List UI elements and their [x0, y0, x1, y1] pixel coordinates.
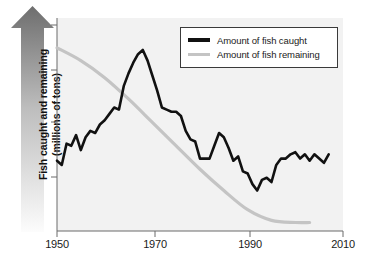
legend-label-fish-caught: Amount of fish caught	[217, 35, 307, 46]
series-line-fish-remaining	[57, 48, 310, 223]
chart-figure: Fish caught and remaining (millions of t…	[0, 0, 366, 267]
legend-item-fish-caught: Amount of fish caught	[188, 33, 330, 47]
legend-item-fish-remaining: Amount of fish remaining	[188, 47, 330, 61]
x-tick-label-1950: 1950	[45, 238, 69, 250]
x-axis-ticks	[57, 231, 343, 237]
x-tick-label-1990: 1990	[238, 238, 262, 250]
legend-swatch-fish-remaining	[188, 53, 210, 56]
x-tick-label-2010: 2010	[331, 238, 355, 250]
chart-legend: Amount of fish caught Amount of fish rem…	[180, 27, 338, 68]
x-tick-label-1970: 1970	[143, 238, 167, 250]
legend-swatch-fish-caught	[188, 38, 210, 42]
legend-label-fish-remaining: Amount of fish remaining	[217, 49, 320, 60]
